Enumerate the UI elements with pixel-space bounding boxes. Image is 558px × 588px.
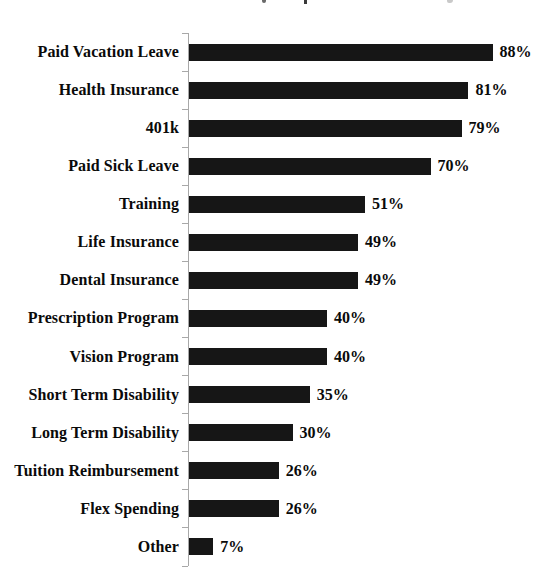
bar-row: Prescription Program40% bbox=[0, 299, 558, 337]
bar-track: 81% bbox=[189, 71, 558, 109]
bar-track: 26% bbox=[189, 452, 558, 490]
benefits-bar-chart: Paid Vacation Leave88%Health Insurance81… bbox=[0, 0, 558, 588]
bar-track: 49% bbox=[189, 223, 558, 261]
bar-row: Tuition Reimbursement26% bbox=[0, 452, 558, 490]
bar-row: Other7% bbox=[0, 528, 558, 566]
bar-track: 35% bbox=[189, 376, 558, 414]
category-label: Life Insurance bbox=[0, 233, 189, 251]
category-label: Other bbox=[0, 538, 189, 556]
value-label: 81% bbox=[475, 81, 507, 99]
bar-track: 40% bbox=[189, 338, 558, 376]
value-label: 30% bbox=[300, 424, 332, 442]
bar-track: 26% bbox=[189, 490, 558, 528]
bar bbox=[189, 310, 327, 327]
bar bbox=[189, 158, 431, 175]
bar bbox=[189, 196, 365, 213]
value-label: 49% bbox=[365, 271, 397, 289]
bar-row: Training51% bbox=[0, 185, 558, 223]
bar-row: Flex Spending26% bbox=[0, 490, 558, 528]
bar-rows: Paid Vacation Leave88%Health Insurance81… bbox=[0, 33, 558, 566]
bar-row: Paid Sick Leave70% bbox=[0, 147, 558, 185]
title-fragment bbox=[262, 0, 266, 3]
bar-track: 79% bbox=[189, 109, 558, 147]
bar-row: Dental Insurance49% bbox=[0, 261, 558, 299]
category-label: Dental Insurance bbox=[0, 271, 189, 289]
value-label: 49% bbox=[365, 233, 397, 251]
clipped-chart-title bbox=[0, 0, 558, 5]
category-label: Training bbox=[0, 195, 189, 213]
value-label: 7% bbox=[220, 538, 244, 556]
value-label: 79% bbox=[469, 119, 501, 137]
value-label: 40% bbox=[334, 348, 366, 366]
bar-row: Paid Vacation Leave88% bbox=[0, 33, 558, 71]
bar bbox=[189, 120, 462, 137]
bar bbox=[189, 44, 493, 61]
bar-row: 401k79% bbox=[0, 109, 558, 147]
category-label: Prescription Program bbox=[0, 309, 189, 327]
bar-track: 30% bbox=[189, 414, 558, 452]
bar-track: 40% bbox=[189, 299, 558, 337]
bar-row: Short Term Disability35% bbox=[0, 376, 558, 414]
category-label: Paid Vacation Leave bbox=[0, 43, 189, 61]
bar-row: Long Term Disability30% bbox=[0, 414, 558, 452]
bar bbox=[189, 538, 213, 555]
category-label: Flex Spending bbox=[0, 500, 189, 518]
bar bbox=[189, 424, 293, 441]
bar-track: 51% bbox=[189, 185, 558, 223]
category-label: 401k bbox=[0, 119, 189, 137]
category-label: Paid Sick Leave bbox=[0, 157, 189, 175]
bar bbox=[189, 386, 310, 403]
value-label: 88% bbox=[500, 43, 532, 61]
bar bbox=[189, 82, 468, 99]
bar-row: Health Insurance81% bbox=[0, 71, 558, 109]
category-label: Long Term Disability bbox=[0, 424, 189, 442]
category-label: Vision Program bbox=[0, 348, 189, 366]
category-label: Tuition Reimbursement bbox=[0, 462, 189, 480]
bar bbox=[189, 462, 279, 479]
bar-track: 49% bbox=[189, 261, 558, 299]
value-label: 26% bbox=[286, 462, 318, 480]
category-label: Short Term Disability bbox=[0, 386, 189, 404]
bar-track: 88% bbox=[189, 33, 558, 71]
bar bbox=[189, 348, 327, 365]
value-label: 70% bbox=[438, 157, 470, 175]
value-label: 35% bbox=[317, 386, 349, 404]
value-label: 51% bbox=[372, 195, 404, 213]
bar bbox=[189, 272, 358, 289]
category-label: Health Insurance bbox=[0, 81, 189, 99]
bar bbox=[189, 500, 279, 517]
value-label: 26% bbox=[286, 500, 318, 518]
bar-row: Vision Program40% bbox=[0, 338, 558, 376]
value-label: 40% bbox=[334, 309, 366, 327]
bar-track: 7% bbox=[189, 528, 558, 566]
title-fragment bbox=[447, 0, 453, 3]
bar bbox=[189, 234, 358, 251]
title-fragment bbox=[304, 0, 307, 4]
bar-row: Life Insurance49% bbox=[0, 223, 558, 261]
bar-track: 70% bbox=[189, 147, 558, 185]
